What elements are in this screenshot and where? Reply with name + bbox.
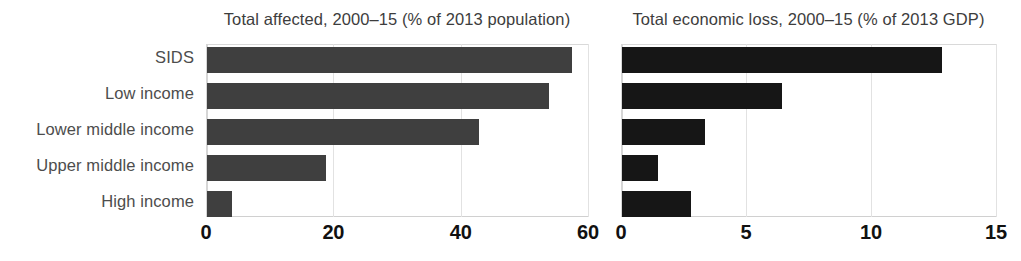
plot-area bbox=[206, 44, 588, 217]
panel-total-affected: Total affected, 2000–15 (% of 2013 popul… bbox=[206, 10, 588, 255]
bar bbox=[622, 47, 942, 73]
panel-title: Total economic loss, 2000–15 (% of 2013 … bbox=[621, 10, 996, 29]
gridline bbox=[996, 44, 997, 217]
category-label: High income bbox=[101, 188, 194, 214]
bar bbox=[207, 119, 479, 145]
x-axis-ticks: 051015 bbox=[621, 217, 996, 251]
bar bbox=[622, 155, 658, 181]
category-label: SIDS bbox=[155, 44, 194, 70]
x-axis-ticks: 0204060 bbox=[206, 217, 588, 251]
category-axis: SIDS Low income Lower middle income Uppe… bbox=[0, 44, 202, 219]
bar bbox=[622, 119, 705, 145]
panel-title: Total affected, 2000–15 (% of 2013 popul… bbox=[206, 10, 588, 29]
x-tick-label: 20 bbox=[322, 221, 344, 244]
plot-area bbox=[621, 44, 996, 217]
category-label: Lower middle income bbox=[36, 116, 194, 142]
x-tick-label: 5 bbox=[741, 221, 752, 244]
bar bbox=[207, 47, 572, 73]
bar-group bbox=[206, 44, 588, 217]
chart-figure: SIDS Low income Lower middle income Uppe… bbox=[0, 0, 1021, 261]
x-tick-label: 0 bbox=[201, 221, 212, 244]
x-tick-label: 40 bbox=[450, 221, 472, 244]
bar-group bbox=[621, 44, 996, 217]
panel-total-economic-loss: Total economic loss, 2000–15 (% of 2013 … bbox=[621, 10, 996, 255]
x-tick-label: 60 bbox=[577, 221, 599, 244]
bar bbox=[622, 191, 691, 217]
category-label: Low income bbox=[105, 80, 194, 106]
bar bbox=[207, 83, 549, 109]
bar bbox=[207, 155, 326, 181]
bar bbox=[622, 83, 782, 109]
x-tick-label: 10 bbox=[860, 221, 882, 244]
x-tick-label: 0 bbox=[616, 221, 627, 244]
gridline bbox=[588, 44, 589, 217]
x-tick-label: 15 bbox=[985, 221, 1007, 244]
category-label: Upper middle income bbox=[36, 152, 194, 178]
bar bbox=[207, 191, 232, 217]
